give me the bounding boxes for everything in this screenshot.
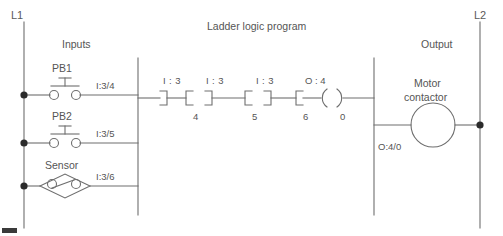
pb2-terminal-right [72, 139, 81, 148]
input-device-label-pb1: PB1 [52, 63, 72, 74]
contact-2-open-right [205, 91, 212, 105]
contact-bit-2: 5 [252, 112, 257, 122]
contact-3-open-left [245, 91, 252, 105]
contact-bit-3: 6 [303, 112, 308, 122]
contact-3-open-right [264, 91, 271, 105]
contact-1-left-bar [160, 91, 167, 105]
node-l1-sensor [20, 182, 27, 189]
node-l1-pb1 [20, 91, 27, 98]
coil-left-arc [322, 89, 327, 107]
input-address-sensor: I:3/6 [96, 172, 115, 182]
contact-4-open-left [296, 91, 303, 105]
coil-bit: 0 [340, 112, 345, 122]
coil-right-arc [337, 89, 342, 107]
rail-label-l1: L1 [11, 10, 23, 21]
inputs-section-header: Inputs [62, 39, 91, 50]
pb2-terminal-left [50, 139, 59, 148]
input-address-pb2: I:3/5 [96, 129, 115, 139]
pb1-terminal-right [72, 91, 81, 100]
node-l1-pb2 [20, 139, 27, 146]
output-address-label: O:4/0 [378, 142, 401, 152]
contact-address-3: I : 3 [256, 76, 274, 86]
output-device-label-line2: contactor [404, 92, 447, 103]
contact-address-2: I : 3 [206, 76, 224, 86]
rail-label-l2: L2 [474, 10, 486, 21]
contact-2-open-left [186, 91, 193, 105]
diagram-title: Ladder logic program [207, 21, 306, 32]
output-section-header: Output [421, 39, 453, 50]
pb1-terminal-left [50, 91, 59, 100]
coil-address: O : 4 [305, 76, 326, 86]
contact-address-1: I : 3 [163, 76, 181, 86]
input-address-pb1: I:3/4 [96, 81, 115, 91]
bottom-left-corner-mark [2, 228, 17, 233]
motor-contactor-coil [411, 103, 455, 147]
node-l2-output [476, 121, 483, 128]
contact-bit-1: 4 [193, 112, 198, 122]
output-device-label-line1: Motor [414, 78, 441, 89]
ladder-diagram-canvas: L1 L2 Inputs Ladder logic program Output… [0, 0, 503, 236]
input-device-label-sensor: Sensor [45, 160, 78, 171]
input-device-label-pb2: PB2 [52, 111, 72, 122]
